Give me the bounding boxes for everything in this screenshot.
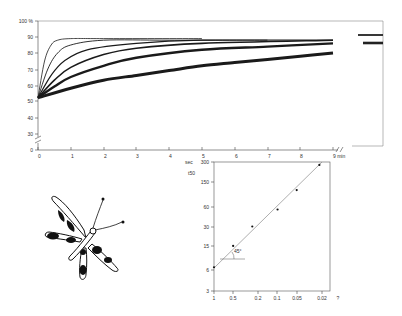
inset-y-tick-label: 150 (201, 179, 210, 185)
inset-chart: sec t50 30015060301563 10.50.20.10.050.0… (185, 159, 340, 301)
inset-x-tick-label: 0.1 (274, 295, 281, 301)
inset-y-tick-label: 6 (206, 267, 209, 273)
x-tick-label: 8 (300, 153, 303, 159)
y-tick-label: 80 (27, 50, 33, 56)
data-point (296, 189, 298, 191)
inset-x-tick-label: 0.2 (255, 295, 262, 301)
inset-x-tick-label: ? (337, 295, 340, 301)
y-tick-label: 70 (27, 67, 33, 73)
figure: 100 %908070605040300 0123456789 min sec … (0, 0, 402, 316)
inset-y-tick-label: 3 (206, 288, 209, 294)
y-tick-label: 30 (27, 131, 33, 137)
y-axis-break (35, 136, 41, 143)
inset-x-tick-label: 1 (213, 295, 216, 301)
fit-line (214, 162, 322, 268)
x-tick-label: 2 (104, 153, 107, 159)
curve-6 (38, 53, 333, 98)
inset-y-tick-label: 30 (203, 224, 209, 230)
y-tick-label: 90 (27, 34, 33, 40)
data-point (213, 266, 215, 268)
y-tick-label: 50 (27, 98, 33, 104)
inset-y-unit: sec (185, 159, 193, 165)
y-tick-label: 0 (30, 147, 33, 153)
x-tick-label: 9 min (333, 153, 345, 159)
y-tick-label: 60 (27, 83, 33, 89)
inset-x-tick-label: 0.5 (230, 295, 237, 301)
x-tick-label: 0 (38, 153, 41, 159)
inset-y-tick-label: 15 (203, 243, 209, 249)
inset-x-tick-label: 0.02 (317, 295, 327, 301)
inset-y-tick-label: 300 (201, 159, 210, 165)
data-point (318, 164, 320, 166)
x-tick-label: 4 (169, 153, 172, 159)
x-tick-label: 3 (136, 153, 139, 159)
x-tick-label: 1 (71, 153, 74, 159)
main-chart: 100 %908070605040300 0123456789 min (19, 18, 383, 159)
data-point (232, 245, 234, 247)
data-point (276, 208, 278, 210)
x-tick-label: 6 (235, 153, 238, 159)
y-tick-label: 40 (27, 115, 33, 121)
data-point (251, 225, 253, 227)
inset-y-tick-label: 60 (203, 204, 209, 210)
x-tick-label: 7 (268, 153, 271, 159)
y-tick-label: 100 % (19, 18, 34, 24)
kinetics-curves (38, 38, 333, 97)
x-axis-break (336, 147, 343, 152)
inset-y-axis-label: t50 (188, 170, 195, 176)
angle-label: 45° (234, 248, 242, 254)
moth-illustration (45, 196, 124, 279)
inset-x-tick-label: 0.05 (292, 295, 302, 301)
